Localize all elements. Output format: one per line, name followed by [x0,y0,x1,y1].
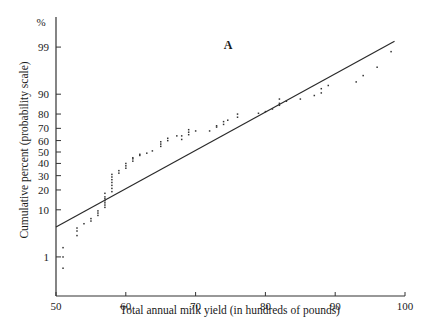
data-point [390,51,392,53]
data-point [152,150,154,152]
x-tick-label: 50 [51,300,63,312]
data-point [62,247,64,249]
data-point [181,139,183,141]
data-point [300,98,302,100]
data-point [97,215,99,217]
data-point [125,163,127,165]
panel-label: A [224,38,233,52]
data-point [195,130,197,132]
data-point [188,131,190,133]
data-point [362,75,364,77]
y-tick-label: 80 [38,108,50,120]
data-point [76,230,78,232]
data-point [167,138,169,140]
data-point [146,152,148,154]
fit-line [56,41,395,227]
data-point [76,227,78,229]
data-point [62,267,64,269]
data-point [125,167,127,169]
data-point [167,140,169,142]
y-tick-label: 90 [38,88,50,100]
y-tick-label: 40 [38,157,50,169]
data-point [104,207,106,209]
data-point [97,210,99,212]
data-point [328,85,330,87]
x-tick-label: 100 [397,300,414,312]
data-point [265,111,267,113]
data-point [104,202,106,204]
data-point [118,170,120,172]
y-tick-label: 10 [38,204,50,216]
data-point [125,165,127,167]
data-point [321,88,323,90]
data-point [111,188,113,190]
y-axis: 110203040506070809099 [38,17,61,296]
data-point [209,130,211,132]
data-point [160,146,162,148]
data-point [62,256,64,258]
data-points [62,51,392,269]
data-point [223,124,225,126]
data-point [237,116,239,118]
data-point [111,185,113,187]
data-point [376,66,378,68]
y-tick-label: 30 [38,170,50,182]
data-point [111,179,113,181]
data-point [286,100,288,102]
y-unit-label: % [36,16,45,28]
data-point [160,143,162,145]
data-point [216,125,218,127]
data-point [223,121,225,123]
data-point [355,81,357,83]
y-tick-label: 1 [44,251,50,263]
data-point [83,223,85,225]
y-tick-label: 60 [38,135,50,147]
data-point [216,126,218,128]
data-point [272,108,274,110]
data-point [314,95,316,97]
data-point [188,134,190,136]
data-point [97,212,99,214]
data-point [118,172,120,174]
y-tick-label: 50 [38,146,50,158]
data-point [76,235,78,237]
data-point [104,196,106,198]
data-point [176,135,178,137]
data-point [111,182,113,184]
y-tick-label: 99 [38,41,50,53]
y-tick-label: 70 [38,122,50,134]
data-point [90,220,92,222]
data-point [160,141,162,143]
data-point [104,193,106,195]
data-point [132,157,134,159]
data-point [321,92,323,94]
data-point [279,98,281,100]
data-point [279,105,281,107]
data-point [279,103,281,105]
probability-plot: 110203040506070809099 5060708090100 A % … [0,0,432,334]
y-tick-label: 20 [38,184,50,196]
data-point [258,113,260,115]
data-point [104,204,106,206]
data-point [111,174,113,176]
data-point [188,129,190,131]
x-axis-title: Total annual milk yield (in hundreds of … [120,304,340,317]
data-point [181,135,183,137]
data-point [237,113,239,115]
data-point [104,200,106,202]
data-point [227,119,229,121]
y-axis-title: Cumulative percent (probability scale) [18,61,31,238]
data-point [139,154,141,156]
data-point [90,218,92,220]
data-point [104,198,106,200]
data-point [111,176,113,178]
data-point [111,191,113,193]
data-point [132,160,134,162]
fitted-line [56,41,395,227]
